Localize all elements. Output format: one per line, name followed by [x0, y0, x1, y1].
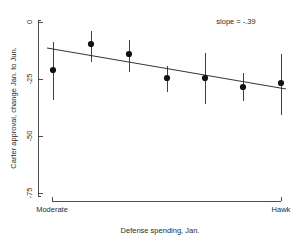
y-tick-label-minus75: -75: [25, 188, 34, 199]
y-tick-label-minus50: -50: [25, 131, 34, 142]
data-point: [164, 75, 170, 81]
data-point: [278, 80, 284, 86]
regression-fit-line: [47, 48, 286, 89]
data-point: [202, 75, 208, 81]
slope-annotation: slope = -.39: [216, 17, 255, 26]
data-point: [126, 51, 132, 57]
data-point: [88, 41, 94, 47]
chart-figure: 0 -25 -50 -75 Carter approval, change Ja…: [0, 0, 300, 241]
x-axis-bracket: [52, 197, 281, 201]
data-point: [240, 84, 246, 90]
y-tick-label-minus25: -25: [25, 74, 34, 85]
data-point: [50, 67, 56, 73]
y-axis-title: Carter approval, change Jan. to Jun.: [9, 47, 18, 168]
y-axis-bracket: [38, 20, 41, 196]
x-label-hawk: Hawk: [272, 205, 291, 214]
scatter-plot-canvas: 0 -25 -50 -75 Carter approval, change Ja…: [0, 0, 300, 241]
y-tick-label-0: 0: [25, 20, 34, 24]
x-axis-title: Defense spending, Jan.: [121, 226, 200, 235]
x-label-moderate: Moderate: [36, 205, 68, 214]
